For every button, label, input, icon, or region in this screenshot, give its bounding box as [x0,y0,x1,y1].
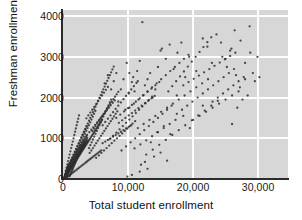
data-point [77,118,79,120]
data-point [183,94,185,96]
data-point [224,58,226,60]
data-point [105,83,107,85]
data-point [119,114,121,116]
data-point [102,132,104,134]
data-point [227,88,229,90]
data-point [206,41,208,43]
data-point [93,113,95,115]
data-point [80,141,82,143]
data-point [111,68,113,70]
data-point [143,129,145,131]
data-point [93,106,95,108]
data-point [131,115,133,117]
data-point [160,111,162,113]
data-point [148,119,150,121]
data-point [228,72,230,74]
data-point [166,107,168,109]
data-point [140,164,142,166]
data-point [103,92,105,94]
data-point [85,117,87,119]
data-point [96,121,98,123]
data-point [126,62,128,64]
data-point [175,80,177,82]
data-point [217,96,219,98]
data-point [202,92,204,94]
data-point [183,58,185,60]
data-point [103,85,105,87]
data-point [210,105,212,107]
data-point [83,136,85,138]
data-point [154,115,156,117]
data-points-layer [63,10,288,179]
data-point [106,109,108,111]
data-point [189,127,191,129]
data-point [139,171,141,173]
y-axis-title-wrap: Freshman enrollment [7,0,21,132]
data-point [128,118,130,120]
data-point [182,115,184,117]
data-point [109,114,111,116]
data-point [163,127,165,129]
data-point [100,149,102,151]
data-point [125,127,127,129]
data-point [76,124,78,126]
data-point [108,144,110,146]
data-point [195,70,197,72]
data-point [146,90,148,92]
data-point [203,71,205,73]
data-point [100,121,102,123]
data-point [114,99,116,101]
data-point [84,128,86,130]
data-point [81,145,83,147]
data-point [81,138,83,140]
data-point [76,145,78,147]
data-point [100,135,102,137]
data-point [75,148,77,150]
y-axis-title: Freshman enrollment [7,0,19,132]
data-point [125,122,127,124]
data-point [68,157,70,159]
y-tick-label: 2000 [40,93,64,103]
x-tick-label: 10,000 [112,182,145,193]
data-point [98,124,100,126]
data-point [182,84,184,86]
data-point [112,102,114,104]
data-point [159,50,161,52]
data-point [189,90,191,92]
data-point [207,78,209,80]
data-point [154,95,156,97]
data-point [178,129,180,131]
data-point [252,72,254,74]
data-point [110,98,112,100]
data-point [73,134,75,136]
data-point [69,162,71,164]
data-point [105,89,107,91]
plot-panel [63,10,288,179]
data-point [136,70,138,72]
data-point [139,60,141,62]
data-point [86,127,88,129]
data-point [142,94,144,96]
data-point [73,153,75,155]
data-point [107,118,109,120]
data-point [211,100,213,102]
data-point [120,101,122,103]
data-point [66,168,68,170]
data-point [101,94,103,96]
data-point [82,133,84,135]
scatter-plot-figure: 01000200030004000 010,00020,00030,000 Fr… [0,0,302,220]
data-point [196,96,198,98]
data-point [72,137,74,139]
data-point [206,46,208,48]
data-point [106,80,108,82]
data-point [110,71,112,73]
data-point [110,120,112,122]
data-point [144,84,146,86]
data-point [222,92,224,94]
data-point [192,119,194,121]
data-point [128,72,130,74]
data-point [157,66,159,68]
data-point [176,52,178,54]
data-point [231,94,233,96]
data-point [94,133,96,135]
